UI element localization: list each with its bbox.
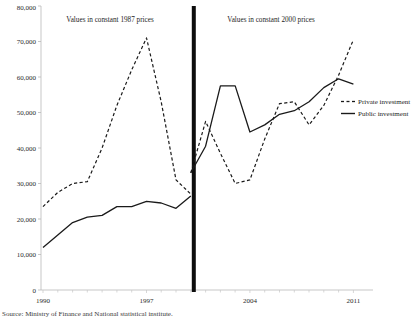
y-tick-label-80000: 80,000 xyxy=(17,4,37,12)
left-panel-title: Values in constant 1987 prices xyxy=(66,16,154,24)
plot-area-background xyxy=(41,6,373,290)
investment-line-chart: 0 10,000 20,000 30,000 40,000 50,000 60,… xyxy=(0,0,418,317)
y-tick-marks xyxy=(38,6,41,290)
x-axis-tick-labels: 1990 1997 2004 2011 xyxy=(36,297,361,305)
y-tick-label-40000: 40,000 xyxy=(17,145,37,153)
y-tick-label-10000: 10,000 xyxy=(17,251,37,259)
right-panel-title: Values in constant 2000 prices xyxy=(227,16,315,24)
y-tick-label-30000: 30,000 xyxy=(17,180,37,188)
x-tick-label-2011: 2011 xyxy=(347,297,361,305)
legend-label-public-investment: Public investment xyxy=(358,110,408,118)
y-tick-label-60000: 60,000 xyxy=(17,74,37,82)
x-tick-label-1997: 1997 xyxy=(140,297,155,305)
y-tick-label-20000: 20,000 xyxy=(17,216,37,224)
legend-label-private-investment: Private investment xyxy=(358,98,410,106)
y-tick-label-70000: 70,000 xyxy=(17,38,37,46)
x-tick-label-2004: 2004 xyxy=(243,297,258,305)
figure-container: 0 10,000 20,000 30,000 40,000 50,000 60,… xyxy=(0,0,418,317)
figure-caption: Source: Ministry of Finance and National… xyxy=(2,310,173,317)
y-axis-tick-labels: 0 10,000 20,000 30,000 40,000 50,000 60,… xyxy=(17,4,37,295)
x-tick-label-1990: 1990 xyxy=(36,297,51,305)
y-tick-label-50000: 50,000 xyxy=(17,109,37,117)
y-tick-label-0: 0 xyxy=(33,287,37,295)
x-tick-marks xyxy=(43,290,353,293)
